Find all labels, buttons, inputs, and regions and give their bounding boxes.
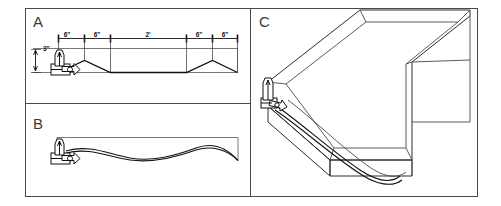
panel-b-letter: B [33,115,44,132]
panel-c-isometric-slab [268,10,470,176]
panel-b: B [33,115,238,164]
panel-a-letter: A [33,13,44,30]
dim-label-2ft-center: 2' [145,31,151,38]
edge-clamp-fixture-a [51,50,80,75]
dim-label-6in-left-1: 6" [64,31,71,38]
panel-c-letter: C [259,13,270,30]
panel-a: A [31,13,238,75]
dim-label-6in-right-2: 6" [222,31,229,38]
drawing-canvas: A [0,0,501,206]
deformed-panel-profile [59,61,238,73]
dim-label-3in: 3" [43,45,50,52]
slab-inner-face-c [286,22,458,148]
deflection-curve-lower-c [275,110,402,184]
panel-a-vertical-dimension: 3" [31,45,50,73]
dim-label-6in-left-2: 6" [94,31,101,38]
bevel-connector-bottomright-c [406,148,412,160]
dim-label-6in-right-1: 6" [196,31,203,38]
panel-b-deflection [66,145,238,160]
panel-c: C [259,10,470,184]
technical-drawing-figure: A [0,0,501,206]
slab-outer-top-c [268,10,470,160]
panel-a-profile [59,49,238,73]
panel-a-dimension-chain: 6" 6" 2' 6" 6" [58,31,238,73]
slab-right-top-edge-c [412,60,470,62]
panel-c-deflection [275,100,406,184]
bevel-connector-top-c [360,10,366,22]
deflection-curve-upper-c [275,105,400,180]
